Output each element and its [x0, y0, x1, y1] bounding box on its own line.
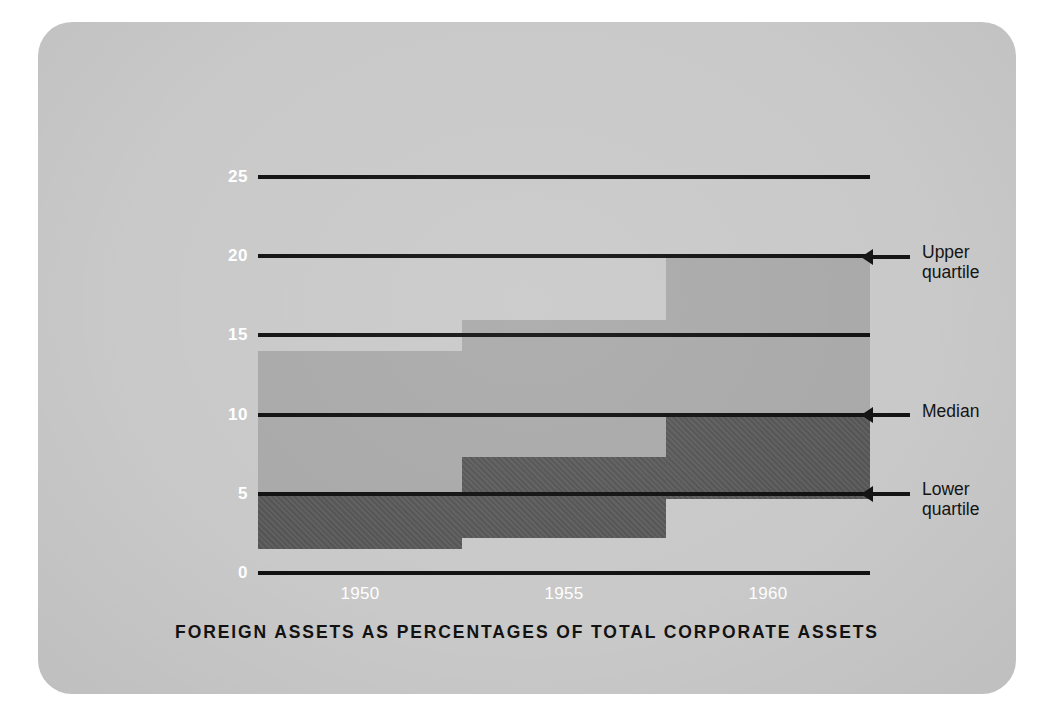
lower-quartile-band	[666, 415, 870, 499]
lower-quartile-label: Lower quartile	[922, 480, 979, 519]
median-arrow	[872, 413, 910, 417]
gridline	[258, 571, 870, 575]
interquartile-band	[462, 320, 666, 458]
upper-quartile-arrow	[872, 255, 910, 259]
y-axis-tick-label: 15	[202, 326, 248, 343]
chart-card: Percentage of total assets FOREIGN ASSET…	[38, 22, 1016, 694]
gridline	[258, 254, 870, 258]
x-axis-tick-label: 1950	[315, 585, 405, 602]
y-axis-tick-label: 25	[202, 168, 248, 185]
y-axis-tick-label: 20	[202, 247, 248, 264]
interquartile-band	[258, 351, 462, 494]
y-axis-tick-label: 10	[202, 406, 248, 423]
plot-area	[258, 177, 870, 573]
y-axis-tick-label: 5	[202, 485, 248, 502]
x-axis-tick-label: 1955	[519, 585, 609, 602]
upper-quartile-label: Upper quartile	[922, 243, 979, 282]
gridline	[258, 413, 870, 417]
lower-quartile-band	[462, 457, 666, 538]
y-axis-title: Percentage of total assets	[0, 15, 7, 218]
y-axis-tick-label: 0	[202, 564, 248, 581]
x-axis-tick-label: 1960	[723, 585, 813, 602]
lower-quartile-arrow	[872, 492, 910, 496]
gridline	[258, 333, 870, 337]
gridline	[258, 492, 870, 496]
figure-canvas: Percentage of total assets FOREIGN ASSET…	[0, 0, 1054, 715]
chart-caption: FOREIGN ASSETS AS PERCENTAGES OF TOTAL C…	[38, 622, 1016, 643]
gridline	[258, 175, 870, 179]
median-label: Median	[922, 402, 979, 422]
lower-quartile-band	[258, 494, 462, 549]
